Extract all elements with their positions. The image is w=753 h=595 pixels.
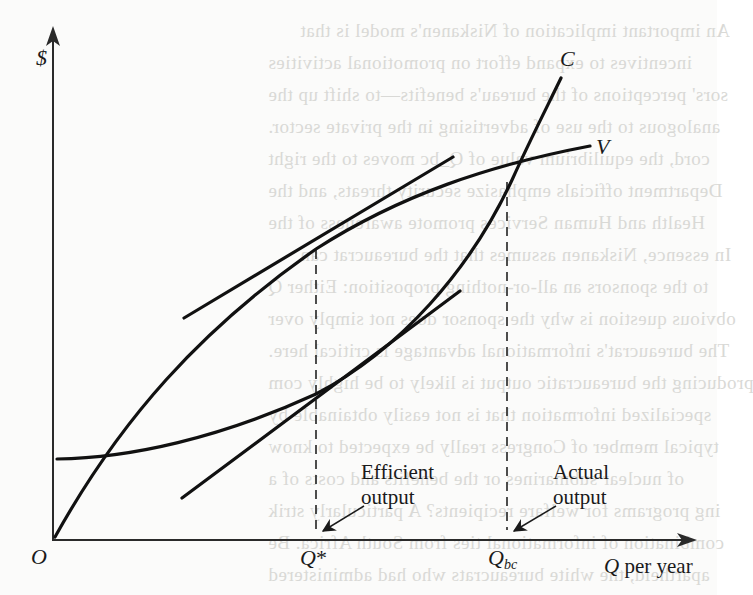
c-curve-label: C — [560, 48, 575, 70]
x-axis — [52, 533, 697, 547]
x-axis-label-variable: Q — [604, 554, 619, 578]
v-curve — [55, 146, 590, 537]
actual-output-arrow-icon — [514, 506, 556, 531]
qstar-label: Q* — [300, 547, 327, 569]
actual-output-annotation: Actual output — [553, 460, 609, 510]
qstar-label-main: Q — [300, 545, 316, 570]
efficient-output-line2: output — [361, 485, 434, 510]
actual-output-line2: output — [553, 485, 609, 510]
x-axis-label-unit: per year — [619, 554, 692, 578]
qstar-label-star: * — [316, 545, 327, 570]
efficient-output-line1: Efficient — [361, 460, 434, 485]
qbc-label: Qbc — [488, 547, 517, 572]
x-axis-label: Q per year — [604, 556, 693, 577]
efficient-output-annotation: Efficient output — [361, 460, 434, 510]
y-axis — [46, 26, 60, 540]
qbc-label-main: Q — [488, 545, 504, 570]
efficient-output-arrow-icon — [323, 506, 364, 531]
y-axis-label: $ — [36, 47, 47, 69]
v-curve-label: V — [596, 136, 609, 158]
actual-output-line1: Actual — [553, 460, 609, 485]
qbc-label-sub: bc — [504, 557, 517, 572]
v-tangent-line — [184, 157, 453, 318]
origin-label: O — [31, 546, 47, 568]
